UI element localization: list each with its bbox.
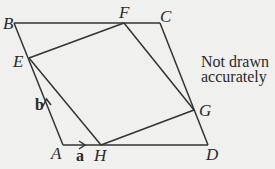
vector-label-a: a: [76, 147, 84, 164]
label-d: D: [205, 145, 219, 164]
label-g: G: [199, 101, 211, 120]
edge-ef: [29, 23, 124, 58]
edge-ab: [14, 23, 63, 145]
label-b: B: [3, 14, 14, 33]
diagram: B F C E G A H D a b Not drawn accurately: [0, 0, 275, 169]
label-f: F: [118, 3, 130, 22]
label-a: A: [50, 144, 62, 163]
parallelogram-figure: B F C E G A H D a b Not drawn accurately: [0, 0, 275, 169]
label-e: E: [12, 52, 24, 71]
label-h: H: [93, 146, 108, 165]
edge-fg: [124, 23, 194, 110]
vector-label-b: b: [35, 96, 44, 113]
label-c: C: [160, 7, 172, 26]
edge-gh: [101, 110, 194, 145]
note-line-2: accurately: [201, 68, 267, 86]
